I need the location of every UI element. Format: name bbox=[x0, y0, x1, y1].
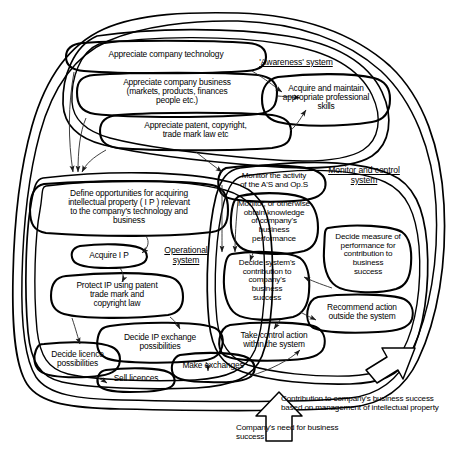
node-label-take-control: Take control action within the system bbox=[222, 331, 326, 349]
node-label-make-exchanges: Make exchanges bbox=[173, 361, 253, 370]
node-label-acquire-ip: Acquire I P bbox=[74, 251, 144, 260]
node-label-decide-licence: Decide licence possibilities bbox=[36, 350, 119, 368]
node-label-monitor-activity: Monitor the activity of the A'S and Op.S bbox=[221, 172, 327, 189]
system-label-awareness: 'Awareness' system bbox=[246, 58, 346, 68]
node-label-decide-ip-exchange: Decide IP exchange possibilities bbox=[99, 333, 221, 351]
system-label-monitor-and-control: Monitor and control system bbox=[316, 166, 412, 186]
arrow-protect-to-licence bbox=[72, 318, 80, 344]
node-label-decide-measure: Decide measure of performance for contri… bbox=[324, 233, 412, 277]
boundary-layer bbox=[0, 0, 455, 453]
node-label-acquire-skills: Acquire and maintain appropriate profess… bbox=[264, 84, 388, 111]
node-label-monitor-knowledge: Monitor, or otherwise obtain knowledge o… bbox=[230, 200, 318, 244]
caption-output: Contribution to company's business succe… bbox=[281, 394, 453, 412]
node-label-sell-licences: Sell licences bbox=[99, 374, 173, 383]
arrow-patent-to-skills bbox=[290, 110, 306, 131]
node-label-appreciate-technology: Appreciate company technology bbox=[68, 50, 264, 59]
node-label-protect-ip: Protect IP using patent trade mark and c… bbox=[52, 281, 182, 308]
diagram-canvas: Appreciate company technology Appreciate… bbox=[0, 0, 455, 453]
node-label-define-opportunities: Define opportunities for acquiring intel… bbox=[32, 189, 226, 225]
node-label-decide-contribution: Decide system's contribution to company'… bbox=[224, 259, 310, 303]
node-label-recommend-action: Recommend action outside the system bbox=[310, 303, 414, 321]
arrow-patent-to-define bbox=[82, 150, 106, 172]
node-label-appreciate-business: Appreciate company business (markets, pr… bbox=[79, 78, 275, 105]
arrow-decide-to-control bbox=[274, 320, 280, 329]
caption-input: Company's need for business success bbox=[236, 423, 356, 441]
node-label-appreciate-patent: Appreciate patent, copyright, trade mark… bbox=[102, 121, 289, 139]
system-label-operational: Operational system bbox=[152, 246, 220, 266]
